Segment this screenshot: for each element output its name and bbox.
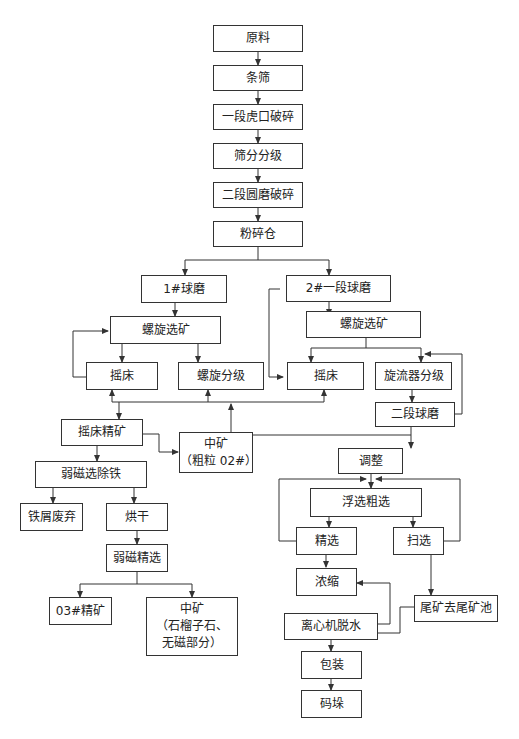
node-cleaning: 精选 bbox=[296, 527, 357, 555]
node-second-ball-mill: 二段球磨 bbox=[375, 402, 455, 427]
node-shaking-table-2: 摇床 bbox=[287, 362, 364, 390]
node-conditioning: 调整 bbox=[338, 448, 403, 474]
node-shaking-table-1: 摇床 bbox=[86, 362, 158, 390]
node-middlings-coarse: 中矿 （粗粒 02#） bbox=[179, 432, 253, 473]
node-jaw-crush: 一段虎口破碎 bbox=[213, 104, 303, 130]
node-powder-bin: 粉碎仓 bbox=[213, 221, 303, 247]
node-drying: 烘干 bbox=[106, 503, 168, 531]
node-centrifuge-dewatering: 离心机脱水 bbox=[284, 613, 378, 640]
node-scavenging: 扫选 bbox=[393, 527, 444, 555]
node-spiral-separation-2: 螺旋选矿 bbox=[306, 311, 421, 338]
node-table-concentrate: 摇床精矿 bbox=[61, 419, 143, 446]
node-iron-scrap-discard: 铁屑废弃 bbox=[20, 503, 83, 531]
node-spiral-separation-1: 螺旋选矿 bbox=[110, 316, 221, 344]
node-ball-mill-1: 1#球磨 bbox=[141, 275, 227, 303]
node-spiral-classifier: 螺旋分级 bbox=[178, 362, 264, 390]
node-weak-magnetic-iron-removal: 弱磁选除铁 bbox=[35, 461, 147, 488]
node-cyclone-classifier: 旋流器分级 bbox=[375, 362, 452, 390]
node-flotation-roughing: 浮选粗选 bbox=[310, 488, 422, 517]
node-tailings-pond: 尾矿去尾矿池 bbox=[414, 595, 498, 622]
flowchart-canvas: 原料 条筛 一段虎口破碎 筛分分级 二段圆磨破碎 粉碎仓 1#球磨 螺旋选矿 摇… bbox=[0, 0, 519, 739]
node-middlings-garnet: 中矿 （石榴子石、 无磁部分） bbox=[146, 597, 238, 656]
node-weak-magnetic-cleaning: 弱磁精选 bbox=[106, 544, 168, 572]
node-ball-mill-2: 2#一段球磨 bbox=[286, 275, 391, 302]
node-screen-grading: 筛分分级 bbox=[213, 143, 303, 169]
node-stacking: 码垛 bbox=[301, 690, 362, 718]
node-packaging: 包装 bbox=[301, 651, 362, 679]
node-cone-crush: 二段圆磨破碎 bbox=[213, 182, 303, 208]
node-raw-material: 原料 bbox=[213, 25, 303, 52]
node-thickening: 浓缩 bbox=[296, 568, 357, 596]
node-concentrate-03: 03#精矿 bbox=[49, 597, 112, 625]
node-bar-screen: 条筛 bbox=[213, 65, 303, 91]
